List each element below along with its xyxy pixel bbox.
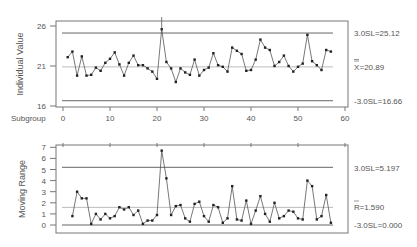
data-point [212, 52, 214, 54]
top-x-axis: 0102030405060 [61, 107, 350, 123]
y-tick-label: 26 [37, 22, 46, 31]
data-point [302, 62, 304, 64]
svg-text:=1.590: =1.590 [360, 203, 385, 212]
top-y-axis-title: Individual Value [15, 33, 25, 96]
data-point [179, 67, 181, 69]
data-point [203, 69, 205, 71]
data-point [104, 213, 106, 215]
data-point [306, 34, 308, 36]
y-tick-label: 1 [42, 210, 47, 219]
data-point [123, 74, 125, 76]
data-point [198, 200, 200, 202]
data-point [170, 67, 172, 69]
data-point [165, 177, 167, 179]
x-tick-label: 50 [294, 114, 303, 123]
data-point [240, 219, 242, 221]
x-tick-label: 0 [61, 114, 66, 123]
y-tick-label: 5 [42, 166, 47, 175]
data-point [170, 214, 172, 216]
bottom-center-label: R =1.590 [354, 201, 385, 212]
y-tick-label: 2 [42, 199, 47, 208]
data-point [226, 217, 228, 219]
data-point [76, 74, 78, 76]
data-point [255, 58, 257, 60]
data-point [325, 49, 327, 51]
data-point [264, 46, 266, 48]
data-point [118, 63, 120, 65]
data-point [123, 208, 125, 210]
data-point [236, 218, 238, 220]
data-point [85, 74, 87, 76]
data-point [269, 220, 271, 222]
svg-text:=20.89: =20.89 [360, 63, 385, 72]
top-lcl-label: -3.0SL=16.66 [354, 97, 403, 106]
data-point [193, 203, 195, 205]
data-point [330, 222, 332, 224]
data-point [109, 58, 111, 60]
data-point [90, 223, 92, 225]
data-point [146, 67, 148, 69]
data-point [264, 213, 266, 215]
data-point [236, 50, 238, 52]
data-point [114, 215, 116, 217]
data-point [255, 209, 257, 211]
data-point [283, 54, 285, 56]
data-point [71, 50, 73, 52]
y-tick-label: 6 [42, 154, 47, 163]
data-point [90, 74, 92, 76]
bottom-y-axis-title: Moving Range [17, 160, 27, 218]
data-point [118, 206, 120, 208]
control-chart: 162126 0102030405060 Individual Value Su… [0, 0, 417, 247]
data-point [99, 70, 101, 72]
data-point [161, 149, 163, 151]
data-point [283, 215, 285, 217]
data-point [208, 66, 210, 68]
data-point [151, 70, 153, 72]
data-point [151, 219, 153, 221]
data-point [250, 69, 252, 71]
data-point [222, 222, 224, 224]
data-point [109, 217, 111, 219]
data-point [297, 217, 299, 219]
data-point [222, 66, 224, 68]
data-point [306, 179, 308, 181]
data-point [297, 66, 299, 68]
data-point [217, 64, 219, 66]
data-point [330, 50, 332, 52]
data-point [156, 214, 158, 216]
bottom-control-limits [62, 167, 333, 225]
data-point [217, 206, 219, 208]
moving-range-line [72, 151, 331, 224]
data-point [67, 56, 69, 58]
data-point [311, 185, 313, 187]
data-point [259, 38, 261, 40]
top-plot-frame [56, 21, 348, 107]
data-point [156, 78, 158, 80]
data-point [245, 199, 247, 201]
data-point [76, 191, 78, 193]
data-point [132, 54, 134, 56]
data-point [226, 70, 228, 72]
x-tick-label: 10 [106, 114, 115, 123]
y-tick-label: 16 [37, 102, 46, 111]
y-tick-label: 21 [37, 62, 46, 71]
moving-range-series [71, 149, 332, 225]
data-point [184, 217, 186, 219]
data-point [146, 219, 148, 221]
data-point [165, 61, 167, 63]
data-point [95, 213, 97, 215]
data-point [287, 209, 289, 211]
data-point [179, 204, 181, 206]
bottom-y-axis: 01234567 [42, 143, 56, 230]
data-point [316, 64, 318, 66]
data-point [278, 61, 280, 63]
data-point [132, 214, 134, 216]
data-point [231, 46, 233, 48]
data-point [316, 218, 318, 220]
data-point [311, 60, 313, 62]
data-point [184, 71, 186, 73]
data-point [193, 58, 195, 60]
data-point [95, 66, 97, 68]
data-point [137, 64, 139, 66]
data-point [203, 215, 205, 217]
